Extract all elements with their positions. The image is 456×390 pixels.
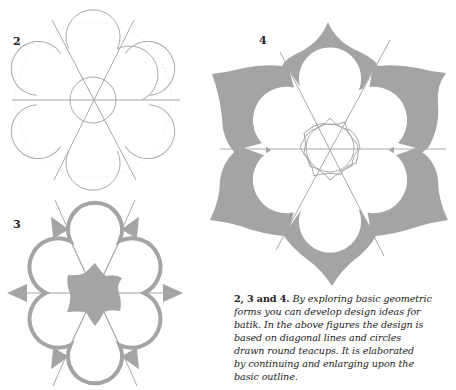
- figure-caption: 2, 3 and 4. By exploring basic geometric…: [234, 292, 456, 383]
- caption-line-7: basic outline.: [234, 370, 456, 383]
- figure-4-label: 4: [259, 34, 267, 47]
- caption-line-2: forms you can develop design ideas for: [234, 305, 456, 318]
- caption-line-1: By exploring basic geometric: [290, 293, 432, 304]
- caption-line-5: drawn round teacups. It is elaborated: [234, 344, 456, 357]
- figure-3-label: 3: [13, 218, 21, 231]
- caption-line-6: by continuing and enlarging upon the: [234, 357, 456, 370]
- caption-figure-refs: 2, 3 and 4.: [234, 293, 290, 304]
- figure-2-flower-outline: [1, 10, 184, 190]
- caption-line-4: based on diagonal lines and circles: [234, 331, 456, 344]
- caption-line-3: batik. In the above figures the design i…: [234, 318, 456, 331]
- figure-4-lotus: [210, 22, 448, 286]
- figure-3-flower-filled: [7, 200, 183, 386]
- figure-2-label: 2: [13, 35, 21, 48]
